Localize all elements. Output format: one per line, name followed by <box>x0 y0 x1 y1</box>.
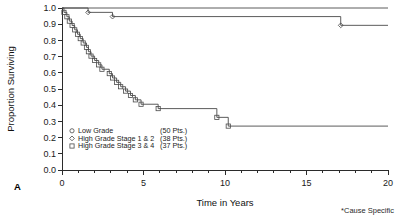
x-axis-title: Time in Years <box>196 197 253 208</box>
y-tick-label: 0.5 <box>43 84 56 94</box>
survival-curve-2 <box>62 8 388 25</box>
x-tick-label: 0 <box>59 178 64 188</box>
x-tick-label: 15 <box>301 178 311 188</box>
y-tick-label: 1.0 <box>43 3 56 13</box>
footnote-cause-specific: *Cause Specific <box>341 206 394 215</box>
y-tick-label: 0.4 <box>43 100 56 110</box>
y-tick-label: 0.3 <box>43 117 56 127</box>
x-tick-label: 10 <box>220 178 230 188</box>
y-tick-label: 0.6 <box>43 68 56 78</box>
x-tick-label: 5 <box>141 178 146 188</box>
y-tick-label: 0.7 <box>43 52 56 62</box>
y-tick-label: 0.1 <box>43 149 56 159</box>
legend-label-3: High Grade Stage 3 & 4 <box>78 141 154 150</box>
kaplan-meier-plot: 0.00.10.20.30.40.50.60.70.80.91.00510152… <box>0 0 399 224</box>
survival-chart-figure: 0.00.10.20.30.40.50.60.70.80.91.00510152… <box>0 0 399 224</box>
panel-label: A <box>14 181 21 192</box>
legend-marker-circle <box>70 129 74 133</box>
y-tick-label: 0.2 <box>43 133 56 143</box>
x-tick-label: 20 <box>383 178 393 188</box>
y-tick-label: 0.0 <box>43 165 56 175</box>
legend-count-3: (37 Pts.) <box>160 141 187 150</box>
legend-marker-diamond <box>70 136 75 141</box>
y-axis-title: Proportion Surviving <box>5 46 16 132</box>
y-tick-label: 0.8 <box>43 36 56 46</box>
legend-marker-square <box>70 144 74 148</box>
y-tick-label: 0.9 <box>43 19 56 29</box>
